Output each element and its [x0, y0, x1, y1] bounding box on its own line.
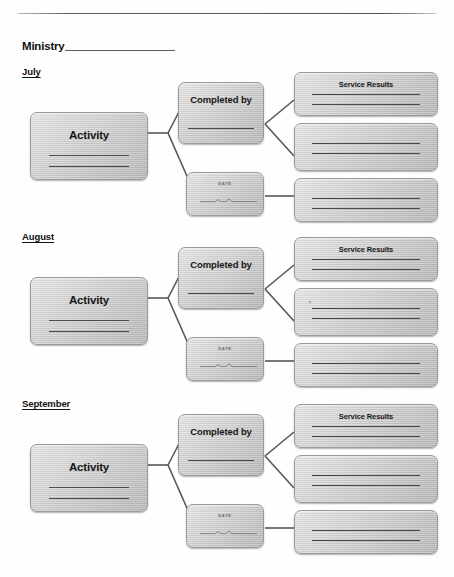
result-box-july-1[interactable]: Service Results: [294, 72, 438, 116]
worksheet-page: Ministry July Activity Completed by DATE: [0, 0, 454, 577]
date-box-july[interactable]: DATE: [186, 172, 264, 216]
result-blank-line-2[interactable]: [312, 373, 420, 374]
result-title: Service Results: [295, 412, 437, 421]
result-title: Service Results: [295, 80, 437, 89]
connector-completed-to-result-2: [265, 289, 294, 321]
activity-blank-line-1[interactable]: [49, 155, 129, 156]
date-title: DATE: [187, 181, 263, 186]
result-blank-line-2[interactable]: [312, 208, 420, 209]
completed-by-title: Completed by: [179, 94, 263, 105]
top-horizontal-rule: [18, 13, 436, 14]
result-blank-line-1[interactable]: [312, 259, 420, 260]
result-box-august-2[interactable]: [294, 288, 438, 336]
activity-blank-line-1[interactable]: [49, 487, 129, 488]
result-blank-line-1[interactable]: [312, 426, 420, 427]
activity-blank-line-2[interactable]: [49, 331, 129, 332]
date-box-september[interactable]: DATE: [186, 504, 264, 548]
result-blank-line-1[interactable]: [312, 94, 420, 95]
result-box-september-2[interactable]: [294, 455, 438, 503]
date-title: DATE: [187, 513, 263, 518]
signature-squiggle-icon: [199, 362, 259, 368]
activity-box-august[interactable]: Activity: [30, 277, 148, 345]
activity-title: Activity: [31, 294, 147, 306]
activity-box-september[interactable]: Activity: [30, 444, 148, 512]
result-blank-line-2[interactable]: [312, 318, 420, 319]
result-blank-line-1[interactable]: [312, 198, 420, 199]
result-title: Service Results: [295, 245, 437, 254]
result-box-september-1[interactable]: Service Results: [294, 404, 438, 448]
result-box-august-3[interactable]: [294, 343, 438, 387]
result-blank-line-1[interactable]: [312, 475, 420, 476]
result-blank-line-1[interactable]: [312, 530, 420, 531]
ministry-header: Ministry: [22, 40, 175, 53]
connector-completed-to-result-2: [265, 456, 294, 488]
ministry-blank-field[interactable]: [65, 50, 175, 51]
result-box-july-3[interactable]: [294, 178, 438, 222]
activity-blank-line-2[interactable]: [49, 166, 129, 167]
completed-by-blank-line[interactable]: [188, 128, 254, 129]
completed-by-box-july[interactable]: Completed by: [178, 82, 264, 144]
result-blank-line-2[interactable]: [312, 104, 420, 105]
signature-squiggle-icon: [199, 197, 259, 203]
activity-box-july[interactable]: Activity: [30, 112, 148, 180]
ministry-label: Ministry: [22, 40, 65, 53]
result-box-september-3[interactable]: [294, 510, 438, 554]
activity-blank-line-2[interactable]: [49, 498, 129, 499]
result-blank-line-2[interactable]: [312, 153, 420, 154]
connector-completed-to-result-1: [265, 265, 294, 289]
result-blank-line-2[interactable]: [312, 540, 420, 541]
result-blank-line-2[interactable]: [312, 436, 420, 437]
date-title: DATE: [187, 346, 263, 351]
result-blank-line-2[interactable]: [312, 485, 420, 486]
result-box-august-1[interactable]: Service Results: [294, 237, 438, 281]
completed-by-box-september[interactable]: Completed by: [178, 414, 264, 476]
activity-blank-line-1[interactable]: [49, 320, 129, 321]
result-blank-line-2[interactable]: [312, 269, 420, 270]
completed-by-box-august[interactable]: Completed by: [178, 247, 264, 309]
scan-speck: [309, 301, 311, 303]
connector-completed-to-result-1: [265, 100, 294, 124]
activity-title: Activity: [31, 129, 147, 141]
result-blank-line-1[interactable]: [312, 143, 420, 144]
completed-by-title: Completed by: [179, 426, 263, 437]
completed-by-blank-line[interactable]: [188, 460, 254, 461]
signature-squiggle-icon: [199, 529, 259, 535]
result-blank-line-1[interactable]: [312, 308, 420, 309]
result-blank-line-1[interactable]: [312, 363, 420, 364]
date-box-august[interactable]: DATE: [186, 337, 264, 381]
connector-completed-to-result-2: [265, 124, 294, 156]
connector-completed-to-result-1: [265, 432, 294, 456]
result-box-july-2[interactable]: [294, 123, 438, 171]
activity-title: Activity: [31, 461, 147, 473]
completed-by-blank-line[interactable]: [188, 293, 254, 294]
completed-by-title: Completed by: [179, 259, 263, 270]
